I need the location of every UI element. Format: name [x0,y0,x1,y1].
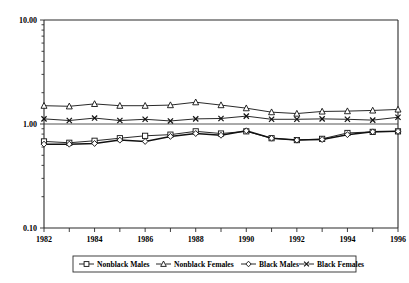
x-tick-label: 1990 [238,235,254,244]
x-tick-label: 1996 [390,235,406,244]
legend-label: Nonblack Females [174,260,234,269]
x-tick-label: 1988 [188,235,204,244]
y-tick-label: 10.00 [19,16,37,25]
line-chart-figure: 10.001.000.10 19821984198619881990199219… [0,0,409,283]
legend-label: Nonblack Males [97,260,150,269]
x-tick-label: 1982 [36,235,52,244]
data-point-square [84,262,89,267]
legend-label: Black Males [259,260,299,269]
data-point-square [143,133,148,138]
y-tick-label: 1.00 [23,120,37,129]
x-tick-label: 1984 [87,235,103,244]
chart-legend: Nonblack MalesNonblack FemalesBlack Male… [73,256,364,272]
legend-label: Black Females [317,260,364,269]
x-tick-label: 1992 [289,235,305,244]
y-tick-label: 0.10 [23,224,37,233]
x-tick-label: 1994 [339,235,355,244]
chart-container: 10.001.000.10 19821984198619881990199219… [0,0,409,283]
x-tick-label: 1986 [137,235,153,244]
